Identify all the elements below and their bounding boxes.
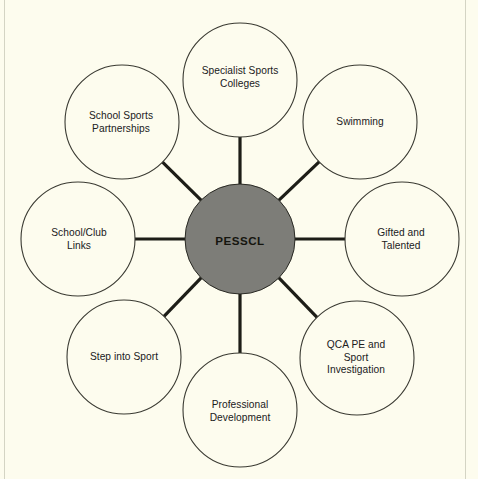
node-circle-gifted-and-talented[interactable] <box>345 182 459 296</box>
node-circle-professional-development[interactable] <box>183 353 297 467</box>
node-circle-school-sports-partnerships[interactable] <box>65 65 179 179</box>
pesscl-radial-diagram: Specialist Sports CollegesSwimmingGifted… <box>0 0 478 479</box>
diagram-canvas <box>0 0 478 479</box>
spoke-school-sports-partnerships <box>162 161 202 200</box>
node-circle-school-club-links[interactable] <box>21 182 135 296</box>
page-edge-left <box>4 0 5 479</box>
page-edge-right <box>465 0 466 479</box>
node-circle-qca-pe-and-sport-investigation[interactable] <box>300 301 414 415</box>
spoke-swimming <box>278 161 320 201</box>
node-circle-step-into-sport[interactable] <box>67 300 181 414</box>
spoke-step-into-sport <box>163 277 202 317</box>
spoke-qca-pe-and-sport-investigation <box>278 277 318 318</box>
node-circle-specialist-sports-colleges[interactable] <box>183 23 297 137</box>
node-circle-swimming[interactable] <box>303 65 417 179</box>
hub-circle[interactable] <box>185 184 295 294</box>
